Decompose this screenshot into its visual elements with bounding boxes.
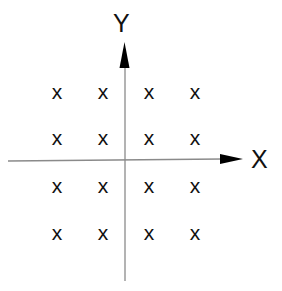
coordinate-diagram: Y X xxxxxxxxxxxxxxxx bbox=[0, 0, 282, 291]
grid-point-marker: x bbox=[93, 127, 113, 148]
x-axis-line bbox=[8, 159, 222, 161]
grid-point-marker: x bbox=[185, 81, 205, 102]
y-axis-label: Y bbox=[113, 11, 130, 36]
grid-point-marker: x bbox=[47, 81, 67, 102]
grid-point-marker: x bbox=[93, 175, 113, 196]
grid-point-marker: x bbox=[185, 222, 205, 243]
y-axis-arrow-icon bbox=[120, 42, 130, 68]
grid-point-marker: x bbox=[185, 175, 205, 196]
grid-point-marker: x bbox=[139, 81, 159, 102]
grid-point-marker: x bbox=[47, 127, 67, 148]
grid-point-marker: x bbox=[93, 222, 113, 243]
x-axis-arrow-icon bbox=[220, 154, 243, 164]
grid-point-marker: x bbox=[185, 127, 205, 148]
grid-point-marker: x bbox=[93, 81, 113, 102]
grid-point-marker: x bbox=[47, 175, 67, 196]
x-axis-label: X bbox=[251, 147, 268, 172]
grid-point-marker: x bbox=[139, 222, 159, 243]
grid-point-marker: x bbox=[139, 175, 159, 196]
grid-point-marker: x bbox=[47, 222, 67, 243]
grid-point-marker: x bbox=[139, 127, 159, 148]
